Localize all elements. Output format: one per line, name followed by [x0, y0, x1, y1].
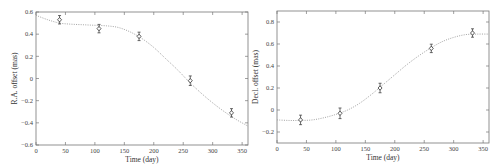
x-tick-label: 200 [149, 147, 159, 154]
plot-frame [277, 11, 489, 143]
y-axis-label: Decl. offset (mas) [251, 50, 260, 104]
data-point [471, 29, 475, 37]
y-tick-label: −0.6 [21, 141, 34, 148]
data-point [230, 109, 234, 117]
y-tick-label: 0.4 [266, 62, 275, 69]
y-tick-label: 0 [271, 106, 274, 113]
x-tick-label: 150 [119, 147, 129, 154]
x-tick-label: 0 [275, 145, 278, 152]
data-point [299, 115, 303, 125]
decl-offset-chart: 050100150200250300350−0.200.20.40.60.8Ti… [251, 11, 489, 162]
y-tick-label: −0.2 [262, 128, 274, 135]
model-fit-curve [36, 15, 248, 126]
x-tick-label: 300 [208, 147, 218, 154]
y-tick-label: −0.4 [21, 119, 34, 126]
y-tick-label: 0.2 [25, 53, 33, 60]
x-tick-label: 250 [178, 147, 188, 154]
data-point [137, 32, 141, 40]
y-tick-label: 0.8 [266, 18, 274, 25]
model-fit-curve [277, 34, 489, 120]
x-tick-label: 150 [360, 145, 370, 152]
x-tick-label: 50 [303, 145, 310, 152]
x-axis-label: Time (day) [125, 155, 159, 164]
y-tick-label: −0.2 [21, 97, 33, 104]
data-point [338, 108, 342, 119]
figure: 050100150200250300350−0.6−0.4−0.200.20.4… [0, 0, 503, 167]
x-axis-label: Time (day) [366, 153, 400, 162]
x-tick-label: 100 [331, 145, 341, 152]
y-tick-label: 0.2 [266, 84, 274, 91]
data-point [378, 83, 382, 93]
x-tick-label: 100 [90, 147, 100, 154]
x-tick-label: 250 [419, 145, 429, 152]
plot-frame [36, 12, 248, 145]
x-tick-label: 350 [478, 145, 488, 152]
x-tick-label: 300 [449, 145, 459, 152]
x-tick-label: 0 [34, 147, 37, 154]
x-tick-label: 50 [62, 147, 69, 154]
y-axis-label: R.A. offset (mas) [10, 52, 19, 104]
y-tick-label: 0.4 [25, 30, 34, 37]
x-tick-label: 200 [390, 145, 400, 152]
y-tick-label: 0.6 [25, 8, 34, 15]
data-point [429, 44, 433, 52]
ra-offset-chart: 050100150200250300350−0.6−0.4−0.200.20.4… [10, 8, 248, 164]
x-tick-label: 350 [237, 147, 247, 154]
y-tick-label: 0.6 [266, 40, 275, 47]
y-tick-label: 0 [30, 75, 33, 82]
